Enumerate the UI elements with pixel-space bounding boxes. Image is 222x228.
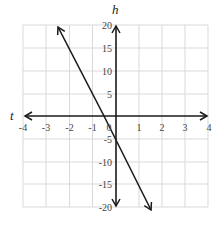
svg-text:20: 20	[102, 20, 112, 31]
svg-text:-4: -4	[19, 122, 27, 133]
svg-text:-3: -3	[42, 122, 50, 133]
svg-text:-1: -1	[88, 122, 96, 133]
svg-text:3: 3	[183, 122, 188, 133]
chart: t h -4 -3 -2 -1 0 1 2 3 4 20 15 10 5 -5 …	[0, 0, 222, 228]
svg-text:2: 2	[160, 122, 165, 133]
x-tick-labels: -4 -3 -2 -1 0 1 2 3 4	[19, 122, 212, 133]
svg-text:-20: -20	[99, 202, 112, 213]
svg-text:1: 1	[137, 122, 142, 133]
svg-text:4: 4	[207, 122, 212, 133]
svg-text:15: 15	[102, 43, 112, 54]
axes	[25, 26, 207, 206]
svg-text:5: 5	[107, 89, 112, 100]
svg-text:10: 10	[102, 66, 112, 77]
svg-text:-5: -5	[104, 134, 112, 145]
svg-text:0: 0	[107, 122, 112, 133]
svg-text:-2: -2	[65, 122, 73, 133]
svg-text:-10: -10	[99, 157, 112, 168]
t-axis-label: t	[10, 108, 14, 123]
svg-text:-15: -15	[99, 179, 112, 190]
h-axis-label: h	[112, 2, 119, 17]
